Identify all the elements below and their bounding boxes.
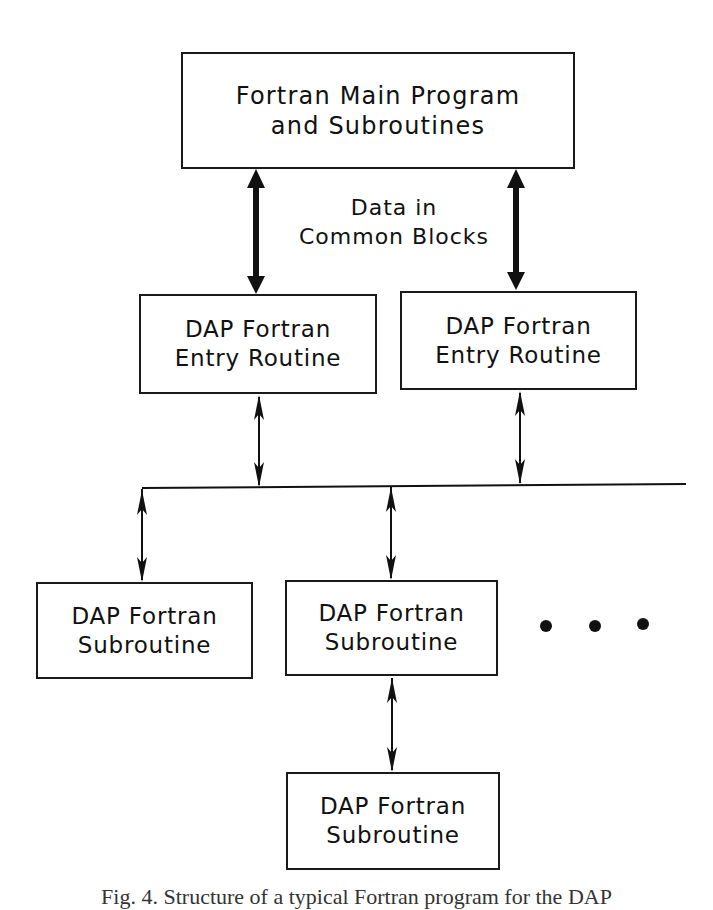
entry-routine-box-left: DAP Fortran Entry Routine bbox=[139, 294, 377, 394]
ellipsis-dot-1 bbox=[540, 620, 552, 632]
subroutine-box-left: DAP Fortran Subroutine bbox=[36, 582, 253, 679]
entry-right-label-line-2: Entry Routine bbox=[435, 341, 602, 370]
ellipsis-dot-3 bbox=[637, 618, 649, 630]
entry-left-label-line-2: Entry Routine bbox=[175, 344, 342, 373]
thin-arrow-sub-middle bbox=[386, 486, 396, 580]
thick-arrow-left bbox=[247, 169, 265, 294]
entry-left-label-line-1: DAP Fortran bbox=[185, 315, 331, 344]
subroutine-box-middle: DAP Fortran Subroutine bbox=[285, 580, 498, 676]
subroutine-box-bottom: DAP Fortran Subroutine bbox=[286, 772, 500, 870]
sub-middle-label-line-2: Subroutine bbox=[325, 628, 459, 657]
main-program-label-line-1: Fortran Main Program bbox=[236, 81, 521, 111]
common-blocks-label: Data in Common Blocks bbox=[270, 194, 518, 251]
sub-bottom-label-line-1: DAP Fortran bbox=[320, 792, 466, 821]
ellipsis-dot-2 bbox=[589, 620, 601, 632]
sub-middle-label-line-1: DAP Fortran bbox=[318, 599, 464, 628]
main-program-label-line-2: and Subroutines bbox=[271, 111, 485, 141]
sub-bottom-label-line-2: Subroutine bbox=[326, 821, 460, 850]
entry-routine-box-right: DAP Fortran Entry Routine bbox=[400, 291, 637, 390]
sub-left-label-line-1: DAP Fortran bbox=[71, 602, 217, 631]
main-program-box: Fortran Main Program and Subroutines bbox=[181, 52, 575, 169]
common-blocks-label-line-1: Data in bbox=[270, 194, 518, 223]
sub-left-label-line-2: Subroutine bbox=[78, 631, 212, 660]
thin-arrow-sub-bottom bbox=[387, 678, 397, 772]
bus-line bbox=[142, 484, 686, 488]
thin-arrow-entry-right bbox=[515, 391, 525, 484]
thin-arrow-entry-left bbox=[254, 395, 264, 487]
figure-caption: Fig. 4. Structure of a typical Fortran p… bbox=[0, 884, 713, 910]
thin-arrow-sub-left bbox=[137, 489, 147, 582]
common-blocks-label-line-2: Common Blocks bbox=[270, 223, 518, 252]
entry-right-label-line-1: DAP Fortran bbox=[445, 312, 591, 341]
